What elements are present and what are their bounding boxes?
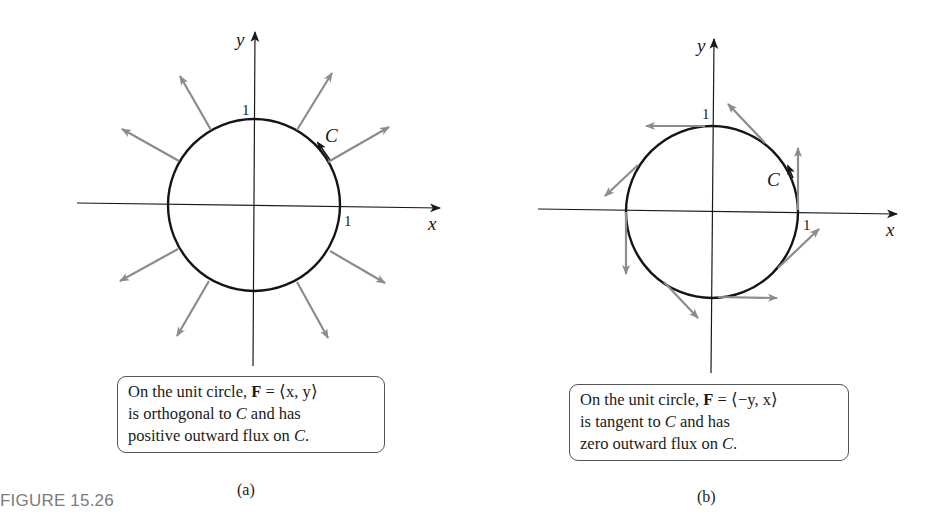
panel-label-b: (b) <box>697 488 716 506</box>
caption-box-a: On the unit circle, F = ⟨x, y⟩ is orthog… <box>117 376 385 453</box>
radial-arrow-210 <box>120 249 178 281</box>
caption-line-1: On the unit circle, F = ⟨−y, x⟩ <box>580 389 840 411</box>
radial-arrow-60 <box>297 73 332 130</box>
curve-label-a: C <box>325 126 338 145</box>
caption-line-1: On the unit circle, F = ⟨x, y⟩ <box>128 381 376 403</box>
tangent-arrow-315 <box>778 229 819 268</box>
y-tick-one-b: 1 <box>702 107 710 122</box>
x-tick-one-b: 1 <box>803 218 811 233</box>
panel-a <box>77 32 440 366</box>
curve-label-b: C <box>767 170 780 189</box>
caption-line-2: is tangent to C and has <box>580 411 840 433</box>
x-axis-label-a: x <box>428 214 436 233</box>
panel-b <box>538 39 897 373</box>
panel-label-a: (a) <box>237 481 255 499</box>
x-tick-one-a: 1 <box>344 214 352 229</box>
tangent-arrow-270 <box>718 297 777 298</box>
y-axis-label-b: y <box>697 36 705 55</box>
radial-arrow-120 <box>180 76 211 130</box>
radial-arrow-330 <box>330 251 385 283</box>
caption-line-2: is orthogonal to C and has <box>128 403 376 425</box>
tangent-arrow-225 <box>664 282 698 318</box>
caption-line-3: zero outward flux on C. <box>580 433 840 455</box>
y-axis-label-a: y <box>236 30 244 49</box>
y-axis <box>711 39 714 373</box>
x-axis <box>538 209 897 214</box>
radial-arrow-150 <box>122 129 179 161</box>
radial-arrow-240 <box>177 281 209 336</box>
figure-title: FIGURE 15.26 <box>0 491 114 511</box>
caption-line-3: positive outward flux on C. <box>128 425 376 447</box>
x-axis-label-b: x <box>886 220 894 239</box>
x-axis <box>77 203 440 208</box>
y-axis <box>253 32 255 366</box>
tangent-arrow-45 <box>728 104 765 143</box>
caption-box-b: On the unit circle, F = ⟨−y, x⟩ is tange… <box>569 384 849 461</box>
radial-arrow-300 <box>297 282 328 338</box>
y-tick-one-a: 1 <box>242 103 250 118</box>
